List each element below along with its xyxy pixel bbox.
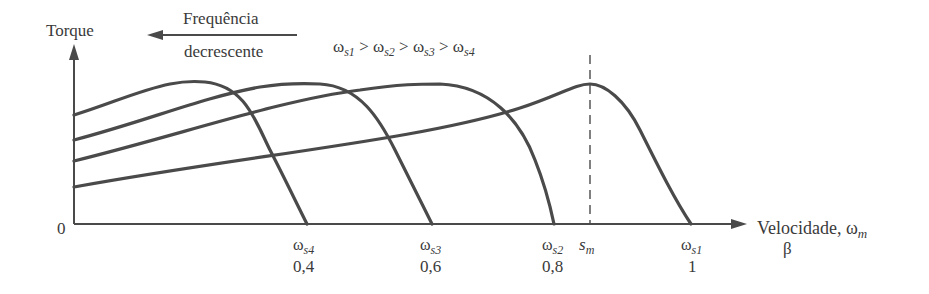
speed-inequality: ωs1 > ωs2 > ωs3 > ωs4 — [333, 37, 475, 59]
svg-text:ωs2: ωs2 — [542, 236, 563, 257]
svg-text:0,8: 0,8 — [542, 257, 563, 276]
svg-text:0,6: 0,6 — [420, 257, 441, 276]
svg-text:ωs3: ωs3 — [420, 236, 441, 257]
frequency-label-line2: decrescente — [184, 42, 263, 61]
svg-text:ωs1: ωs1 — [681, 236, 702, 257]
tick-ws1: ωs1 1 — [681, 236, 702, 276]
origin-label: 0 — [57, 219, 66, 238]
y-axis-arrow-icon — [69, 44, 79, 60]
torque-speed-diagram: Torque 0 Frequência decrescente ωs1 > ωs… — [0, 0, 929, 294]
y-axis-label: Torque — [46, 21, 94, 40]
beta-label: β — [783, 239, 792, 258]
frequency-arrow-icon — [147, 30, 163, 40]
curve-ws3 — [74, 83, 432, 224]
frequency-label-line1: Frequência — [183, 9, 259, 28]
svg-text:ωs4: ωs4 — [293, 236, 314, 257]
tick-ws4: ωs4 0,4 — [293, 236, 315, 276]
svg-text:Velocidade, ωm: Velocidade, ωm — [757, 218, 867, 241]
svg-text:0,4: 0,4 — [293, 257, 315, 276]
svg-text:sm: sm — [579, 235, 595, 257]
tick-ws2: ωs2 0,8 — [542, 236, 563, 276]
svg-text:1: 1 — [688, 257, 697, 276]
tick-sm: sm — [579, 235, 595, 257]
svg-text:ωs1 > ωs2 > ωs3 > ωs4: ωs1 > ωs2 > ωs3 > ωs4 — [333, 37, 475, 59]
tick-ws3: ωs3 0,6 — [420, 236, 441, 276]
x-axis-label: Velocidade, ωm β — [757, 218, 867, 258]
x-axis-arrow-icon — [731, 219, 747, 229]
curve-ws1 — [74, 84, 691, 224]
curve-ws2 — [74, 84, 554, 224]
